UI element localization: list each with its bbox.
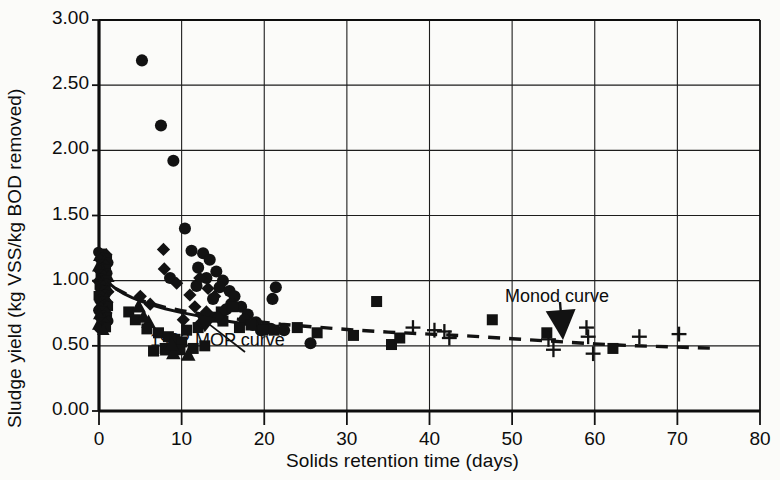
circle-marker bbox=[179, 222, 191, 234]
diamond-marker bbox=[144, 298, 157, 311]
square-marker bbox=[234, 322, 245, 333]
sludge-yield-chart: Sludge yield (kg VSS/kg BOD removed) Sol… bbox=[0, 0, 780, 480]
plus-marker bbox=[672, 327, 687, 342]
axis-tick-marks bbox=[92, 20, 760, 425]
circle-marker bbox=[136, 54, 148, 66]
plus-marker bbox=[632, 329, 647, 344]
plus-marker bbox=[579, 320, 594, 335]
circle-marker bbox=[192, 262, 204, 274]
circle-marker bbox=[270, 281, 282, 293]
square-marker bbox=[292, 322, 303, 333]
circle-marker bbox=[167, 155, 179, 167]
square-marker bbox=[181, 325, 192, 336]
square-marker bbox=[148, 346, 159, 357]
square-marker bbox=[541, 327, 552, 338]
square-marker bbox=[269, 325, 280, 336]
square-marker bbox=[246, 319, 257, 330]
square-marker bbox=[153, 327, 164, 338]
plot-canvas bbox=[0, 0, 780, 480]
circle-marker bbox=[155, 120, 167, 132]
circle-marker bbox=[278, 324, 290, 336]
square-marker bbox=[371, 296, 382, 307]
square-marker bbox=[227, 301, 238, 312]
square-marker bbox=[607, 343, 618, 354]
circle-marker bbox=[204, 254, 216, 266]
square-marker bbox=[394, 333, 405, 344]
square-marker bbox=[487, 314, 498, 325]
square-marker bbox=[199, 340, 210, 351]
diamond-marker bbox=[188, 300, 201, 313]
square-marker bbox=[348, 330, 359, 341]
circle-marker bbox=[185, 245, 197, 257]
square-marker bbox=[257, 325, 268, 336]
circle-marker bbox=[304, 337, 316, 349]
diamond-marker bbox=[157, 243, 170, 256]
plus-marker bbox=[586, 346, 601, 361]
square-marker bbox=[312, 327, 323, 338]
circle-marker bbox=[266, 293, 278, 305]
